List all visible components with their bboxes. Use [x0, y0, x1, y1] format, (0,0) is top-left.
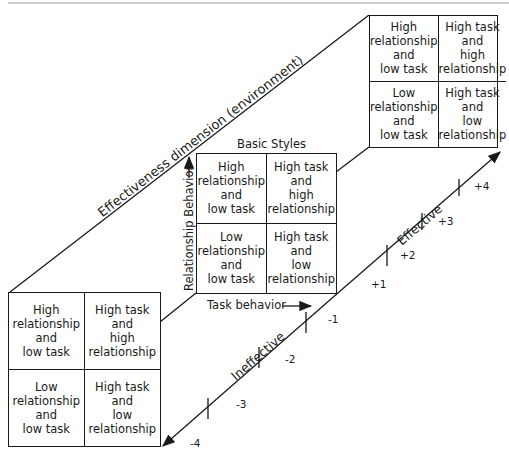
- style-cell-high-rel-low-task: High relationship and low task: [370, 16, 439, 82]
- style-cell-high-rel-low-task: High relationship and low task: [197, 154, 267, 224]
- style-cell-high-task-low-rel: High task and low relationship: [267, 224, 337, 294]
- style-cell-low-rel-low-task: Low relationship and low task: [370, 82, 439, 148]
- tick-label-neg2: -2: [285, 353, 295, 365]
- basic-styles-title: Basic Styles: [237, 137, 306, 151]
- tick-label-pos4: +4: [474, 180, 489, 192]
- ineffective-styles-grid: High relationship and low task High task…: [8, 292, 161, 447]
- style-cell-high-task-high-rel: High task and high relationship: [439, 16, 507, 82]
- basic-styles-grid: High relationship and low task High task…: [196, 153, 337, 294]
- tick-label-pos1: +1: [371, 278, 386, 290]
- style-cell-high-task-high-rel: High task and high relationship: [267, 154, 337, 224]
- tick-label-neg3: -3: [236, 398, 246, 410]
- style-cell-high-task-low-rel: High task and low relationship: [439, 82, 507, 148]
- tick-label-pos3: +3: [438, 215, 453, 227]
- tick-label-neg4: -4: [190, 437, 200, 449]
- style-cell-high-task-high-rel: High task and high relationship: [85, 293, 161, 370]
- connector-ineffective-to-basic: [160, 293, 196, 322]
- style-cell-low-rel-low-task: Low relationship and low task: [197, 224, 267, 294]
- tick-label-pos2: +2: [400, 249, 415, 261]
- relationship-behavior-label: Relationship Behavior: [182, 166, 196, 291]
- connector-basic-to-effective: [336, 147, 369, 172]
- style-cell-low-rel-low-task: Low relationship and low task: [9, 370, 85, 447]
- tick-label-neg1: -1: [328, 313, 338, 325]
- style-cell-high-task-low-rel: High task and low relationship: [85, 370, 161, 447]
- effective-styles-grid: High relationship and low task High task…: [369, 15, 498, 148]
- style-cell-high-rel-low-task: High relationship and low task: [9, 293, 85, 370]
- task-behavior-label: Task behavior: [207, 298, 286, 312]
